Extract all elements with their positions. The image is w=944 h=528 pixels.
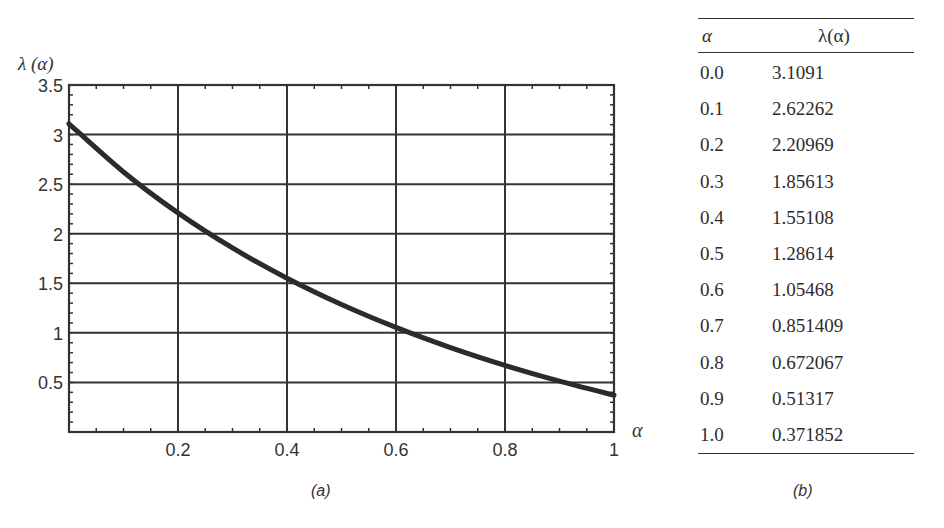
alpha-cell: 0.3 [698, 171, 772, 193]
x-axis-label: α [632, 419, 643, 441]
x-tick-label: 0.6 [383, 440, 408, 460]
table-caption: (b) [793, 482, 813, 500]
table-body: 0.03.10910.12.622620.22.209690.31.856130… [698, 53, 914, 453]
lambda-cell: 1.05468 [772, 279, 914, 301]
chart-grid [69, 85, 614, 432]
table-row: 0.12.62262 [698, 91, 914, 127]
lambda-cell: 0.672067 [772, 352, 914, 374]
y-tick-labels: 0.511.522.533.5 [38, 76, 63, 393]
lambda-cell: 1.85613 [772, 171, 914, 193]
table-row: 1.00.371852 [698, 417, 914, 453]
alpha-cell: 0.0 [698, 62, 772, 84]
table-row: 0.80.672067 [698, 345, 914, 381]
table-row: 0.31.85613 [698, 164, 914, 200]
alpha-cell: 0.4 [698, 207, 772, 229]
y-tick-label: 1.5 [38, 274, 63, 294]
x-tick-label: 0.2 [165, 440, 190, 460]
alpha-cell: 0.8 [698, 352, 772, 374]
table-bottom-rule [698, 453, 914, 454]
lambda-cell: 2.62262 [772, 98, 914, 120]
table-row: 0.41.55108 [698, 200, 914, 236]
y-tick-label: 2.5 [38, 175, 63, 195]
lambda-cell: 0.371852 [772, 424, 914, 446]
lambda-cell: 1.28614 [772, 243, 914, 265]
x-tick-labels: 0.20.40.60.81 [165, 440, 619, 460]
alpha-cell: 0.6 [698, 279, 772, 301]
alpha-cell: 0.1 [698, 98, 772, 120]
lambda-cell: 3.1091 [772, 62, 914, 84]
y-tick-label: 3.5 [38, 76, 63, 96]
chart-axes [69, 85, 614, 432]
table-row: 0.70.851409 [698, 308, 914, 344]
table-row: 0.51.28614 [698, 236, 914, 272]
table-row: 0.90.51317 [698, 381, 914, 417]
x-tick-label: 0.4 [274, 440, 299, 460]
lambda-cell: 2.20969 [772, 134, 914, 156]
table-row: 0.22.20969 [698, 127, 914, 163]
values-table: α λ(α) 0.03.10910.12.622620.22.209690.31… [698, 18, 914, 454]
alpha-cell: 1.0 [698, 424, 772, 446]
lambda-cell: 1.55108 [772, 207, 914, 229]
alpha-cell: 0.9 [698, 388, 772, 410]
table-row: 0.03.1091 [698, 55, 914, 91]
x-tick-label: 0.8 [492, 440, 517, 460]
lambda-cell: 0.851409 [772, 315, 914, 337]
alpha-cell: 0.5 [698, 243, 772, 265]
alpha-cell: 0.2 [698, 134, 772, 156]
lambda-curve [69, 124, 614, 395]
y-axis-label: λ (α) [17, 53, 54, 75]
table-row: 0.61.05468 [698, 272, 914, 308]
y-tick-label: 3 [53, 126, 63, 146]
header-lambda: λ(α) [774, 25, 914, 47]
lambda-cell: 0.51317 [772, 388, 914, 410]
y-tick-label: 1 [53, 324, 63, 344]
chart-minor-ticks [69, 85, 614, 432]
y-tick-label: 2 [53, 225, 63, 245]
y-tick-label: 0.5 [38, 373, 63, 393]
header-alpha: α [698, 25, 774, 47]
x-tick-label: 1 [609, 440, 619, 460]
alpha-cell: 0.7 [698, 315, 772, 337]
table-header: α λ(α) [698, 19, 914, 52]
chart-caption: (a) [311, 482, 331, 500]
